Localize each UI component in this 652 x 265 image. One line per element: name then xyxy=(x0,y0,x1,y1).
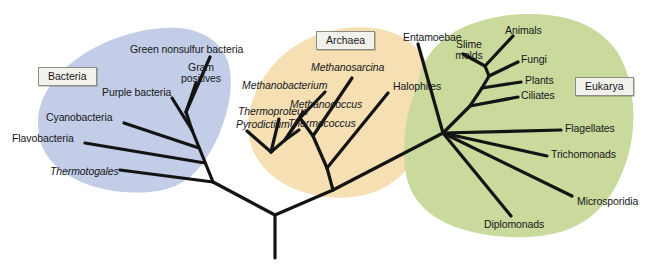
slime-molds-line-2: molds xyxy=(450,50,488,61)
taxon-label-microsporidia: Microsporidia xyxy=(577,196,638,208)
taxon-label-flavobacteria: Flavobacteria xyxy=(12,133,74,145)
taxon-label-thermococcus: Thermococcus xyxy=(288,118,356,130)
taxon-label-ciliates: Ciliates xyxy=(521,90,555,102)
taxon-label-plants: Plants xyxy=(525,75,554,87)
branch-root-to-archaea-eukarya xyxy=(275,190,333,215)
gram-positives-line-2: positives xyxy=(178,73,224,84)
phylogenetic-tree-figure: Green nonsulfur bacteria Gram positives … xyxy=(0,0,652,265)
taxon-label-gram-positives: Gram positives xyxy=(178,62,224,84)
taxon-label-slime-molds: Slime molds xyxy=(450,39,488,61)
taxon-label-cyanobacteria: Cyanobacteria xyxy=(46,112,112,124)
taxon-label-pyrodictium: Pyrodictium xyxy=(236,119,290,131)
branch-root-to-bacteria xyxy=(213,182,275,215)
taxon-label-thermoproteus: Thermoproteus xyxy=(238,106,308,118)
taxon-label-green-nonsulfur-bacteria: Green nonsulfur bacteria xyxy=(130,44,243,56)
taxon-label-methanosarcina: Methanosarcina xyxy=(311,62,384,74)
taxon-label-diplomonads: Diplomonads xyxy=(484,219,544,231)
domain-label-eukarya: Eukarya xyxy=(575,77,634,96)
taxon-label-thermotogales: Thermotogales xyxy=(50,166,119,178)
taxon-label-halophiles: Halophiles xyxy=(393,81,441,93)
taxon-label-animals: Animals xyxy=(505,25,542,37)
domain-label-bacteria: Bacteria xyxy=(38,67,97,86)
taxon-label-purple-bacteria: Purple bacteria xyxy=(102,87,171,99)
taxon-label-methanobacterium: Methanobacterium xyxy=(242,80,327,92)
domain-label-archaea: Archaea xyxy=(316,31,375,50)
taxon-label-trichomonads: Trichomonads xyxy=(551,149,616,161)
taxon-label-flagellates: Flagellates xyxy=(565,123,615,135)
taxon-label-fungi: Fungi xyxy=(521,54,547,66)
